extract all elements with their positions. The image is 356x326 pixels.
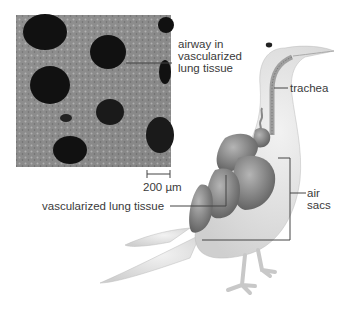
label-airway-line1: airway in <box>178 38 223 50</box>
label-trachea: trachea <box>290 82 328 94</box>
label-air-sacs-line1: air <box>307 187 320 199</box>
label-lung-tissue: vascularized lung tissue <box>42 200 164 212</box>
label-airway-line3: lung tissue <box>178 62 233 74</box>
label-airway-line2: vascularized <box>178 50 242 62</box>
label-air-sacs-line2: sacs <box>307 199 331 211</box>
scale-bar <box>147 170 170 178</box>
sem-micrograph <box>16 14 174 167</box>
label-scale: 200 µm <box>143 181 182 193</box>
